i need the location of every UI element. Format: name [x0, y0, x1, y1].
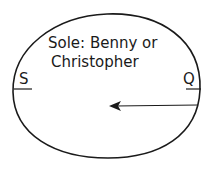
arrow-line [115, 105, 198, 106]
right-label-q: Q [183, 70, 195, 88]
title-line-1: Sole: Benny or [48, 34, 158, 52]
left-label-s: S [19, 70, 29, 88]
title-line-2: Christopher [51, 53, 139, 71]
diagram-canvas: Sole: Benny or Christopher S Q [0, 0, 215, 170]
